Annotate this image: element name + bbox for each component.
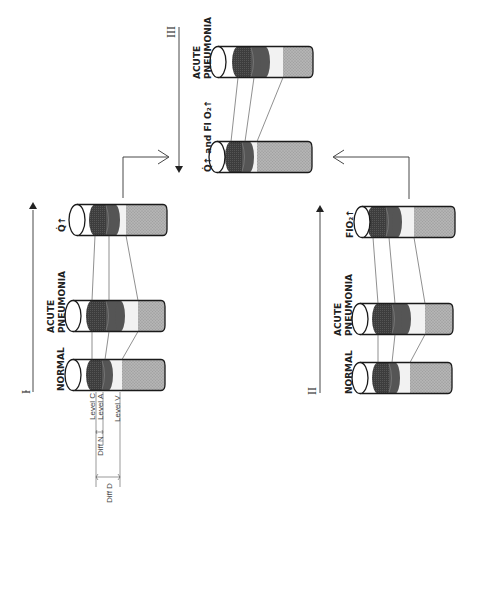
flow-arrow-ii-to-iii xyxy=(333,150,409,199)
label-i-acute-line1: ACUTE xyxy=(46,300,56,333)
label-iii-acute-line2: PNEUMONIA xyxy=(203,17,213,79)
cylinder-i-2 xyxy=(69,205,167,236)
diff-n-label: Diff N xyxy=(96,436,105,456)
section-ii-progress-arrow xyxy=(316,205,324,393)
section-i-label: I xyxy=(19,390,33,394)
label-ii-acute-line1: ACUTE xyxy=(333,303,343,336)
section-iii-label: III xyxy=(164,26,178,38)
label-iii-q-and-fio2: Q̇↑ and FI O₂↑ xyxy=(202,100,213,172)
label-ii-normal: NORMAL xyxy=(344,350,354,394)
cylinder-ii-0 xyxy=(352,363,452,394)
diagram-canvas: I II III Level C Level A Level V Diff N … xyxy=(0,0,480,600)
cylinder-i-0 xyxy=(65,360,165,391)
cylinder-iii-0 xyxy=(209,142,312,173)
label-i-normal: NORMAL xyxy=(56,347,66,391)
level-annotations: Level C Level A Level V Diff N Diff D xyxy=(88,392,122,503)
section-iii-progress-arrow xyxy=(175,27,183,173)
section-ii-label: II xyxy=(305,387,319,395)
cylinder-ii-1 xyxy=(352,304,453,335)
label-ii-fio2-up: FIO₂↑ xyxy=(345,209,355,238)
cylinder-i-1 xyxy=(65,301,165,332)
label-iii-acute-line1: ACUTE xyxy=(192,46,202,79)
label-ii-acute-line2: PNEUMONIA xyxy=(344,274,354,336)
cylinder-iii-1 xyxy=(210,47,313,78)
label-i-q-up: Q̇↑ xyxy=(56,217,67,232)
label-i-acute-line2: PNEUMONIA xyxy=(57,271,67,333)
diff-d-label: Diff D xyxy=(105,483,114,503)
level-a-label: Level A xyxy=(96,393,105,420)
section-i-progress-arrow xyxy=(26,202,37,392)
flow-arrow-i-to-iii xyxy=(123,150,169,198)
level-v-label: Level V xyxy=(113,395,122,422)
cylinder-ii-2 xyxy=(354,207,455,238)
